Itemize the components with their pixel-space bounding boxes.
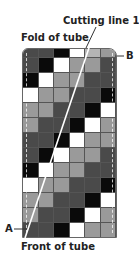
- grid-cell: [39, 103, 55, 118]
- grid-cell: [54, 208, 70, 223]
- front-of-tube-label: Front of tube: [21, 242, 95, 252]
- grid-cell: [101, 133, 117, 148]
- grid-cell: [85, 223, 101, 238]
- grid-cell: [39, 208, 55, 223]
- grid-cell: [54, 103, 70, 118]
- grid-cell: [85, 163, 101, 178]
- grid-cell: [101, 178, 117, 193]
- grid-cell: [39, 223, 55, 238]
- grid-cell: [39, 163, 55, 178]
- grid-cell: [85, 133, 101, 148]
- point-a-label: A: [5, 224, 13, 234]
- grid-cell: [101, 223, 117, 238]
- grid-cell: [70, 193, 86, 208]
- grid-cell: [54, 193, 70, 208]
- grid-cell: [39, 133, 55, 148]
- grid-cell: [101, 148, 117, 163]
- grid-cell: [70, 163, 86, 178]
- grid-cell: [39, 88, 55, 103]
- tube-pattern: [22, 48, 117, 238]
- grid-cell: [70, 178, 86, 193]
- grid-cell: [101, 88, 117, 103]
- grid-cell: [54, 133, 70, 148]
- grid-cell: [54, 73, 70, 88]
- grid-cell: [70, 88, 86, 103]
- grid-cell: [54, 118, 70, 133]
- right-fold-line: [112, 53, 113, 233]
- grid-cell: [85, 178, 101, 193]
- grid-cell: [85, 103, 101, 118]
- grid-cell: [39, 118, 55, 133]
- grid-cell: [70, 148, 86, 163]
- cutting-line-label: Cutting line 1: [63, 16, 139, 26]
- shade-grid: [23, 48, 116, 238]
- grid-cell: [54, 178, 70, 193]
- grid-cell: [39, 178, 55, 193]
- point-b-label: B: [126, 51, 134, 61]
- grid-cell: [85, 73, 101, 88]
- grid-cell: [101, 73, 117, 88]
- grid-cell: [70, 73, 86, 88]
- grid-cell: [70, 103, 86, 118]
- fold-of-tube-label: Fold of tube: [21, 33, 89, 43]
- grid-cell: [85, 88, 101, 103]
- grid-cell: [70, 208, 86, 223]
- grid-cell: [101, 58, 117, 73]
- grid-cell: [101, 48, 117, 58]
- grid-cell: [101, 163, 117, 178]
- grid-cell: [70, 48, 86, 58]
- grid-cell: [85, 48, 101, 58]
- grid-cell: [39, 148, 55, 163]
- grid-cell: [85, 208, 101, 223]
- grid-cell: [39, 48, 55, 58]
- grid-cell: [39, 58, 55, 73]
- grid-cell: [39, 193, 55, 208]
- left-fold-line: [26, 53, 27, 233]
- grid-cell: [70, 133, 86, 148]
- grid-cell: [85, 148, 101, 163]
- grid-cell: [54, 48, 70, 58]
- grid-cell: [54, 223, 70, 238]
- grid-cell: [101, 193, 117, 208]
- grid-cell: [85, 118, 101, 133]
- grid-cell: [39, 73, 55, 88]
- grid-cell: [85, 58, 101, 73]
- grid-cell: [70, 58, 86, 73]
- grid-cell: [54, 148, 70, 163]
- grid-cell: [54, 163, 70, 178]
- grid-cell: [54, 58, 70, 73]
- grid-cell: [101, 208, 117, 223]
- grid-cell: [101, 118, 117, 133]
- grid-cell: [70, 223, 86, 238]
- grid-cell: [54, 88, 70, 103]
- grid-cell: [101, 103, 117, 118]
- grid-cell: [70, 118, 86, 133]
- grid-cell: [85, 193, 101, 208]
